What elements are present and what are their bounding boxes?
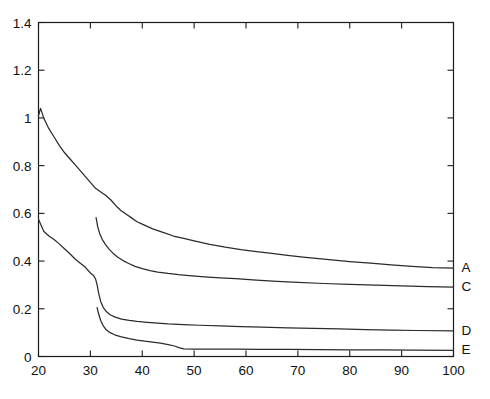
series-label-c: C <box>462 279 472 294</box>
y-tick-label: 1.2 <box>13 63 32 78</box>
x-tick-label: 20 <box>31 363 46 378</box>
y-tick-label: 0.6 <box>13 206 32 221</box>
chart-background <box>0 0 490 399</box>
x-tick-label: 50 <box>187 363 202 378</box>
x-tick-label: 80 <box>342 363 357 378</box>
x-tick-labels: 2030405060708090100 <box>31 363 465 378</box>
x-tick-label: 100 <box>442 363 465 378</box>
series-label-e: E <box>462 342 471 357</box>
line-chart: ACDE 00.20.40.60.811.21.4 20304050607080… <box>0 0 490 399</box>
y-tick-label: 1 <box>24 111 32 126</box>
x-tick-label: 40 <box>135 363 150 378</box>
chart-svg: ACDE 00.20.40.60.811.21.4 20304050607080… <box>0 0 490 399</box>
y-tick-label: 1.4 <box>13 16 32 31</box>
series-label-d: D <box>462 323 472 338</box>
y-tick-label: 0.4 <box>13 254 32 269</box>
x-tick-label: 30 <box>83 363 98 378</box>
y-tick-label: 0.8 <box>13 159 32 174</box>
x-tick-label: 60 <box>238 363 253 378</box>
x-tick-label: 70 <box>290 363 305 378</box>
x-tick-label: 90 <box>394 363 409 378</box>
y-tick-label: 0.2 <box>13 302 32 317</box>
series-label-a: A <box>462 260 471 275</box>
